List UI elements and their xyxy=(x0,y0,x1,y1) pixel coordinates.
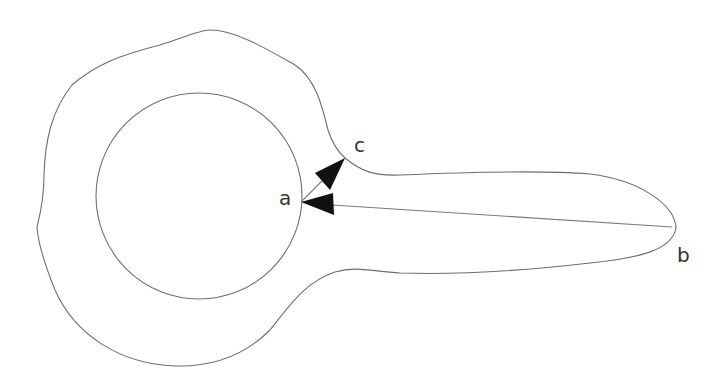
outer-region-outline xyxy=(37,30,676,366)
point-label-a: a xyxy=(279,188,291,208)
point-label-c: c xyxy=(354,135,365,155)
inner-circle xyxy=(96,93,302,299)
diagram-canvas xyxy=(0,0,721,377)
arrow-a-to-c-head xyxy=(315,158,345,190)
arrow-b-to-a-shaft xyxy=(332,205,672,227)
point-label-b: b xyxy=(677,245,690,265)
